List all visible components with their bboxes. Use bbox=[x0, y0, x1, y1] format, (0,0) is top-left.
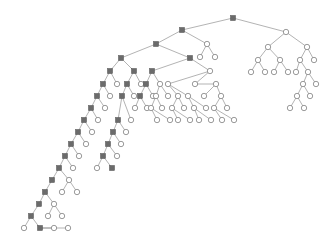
tree-node-circle bbox=[201, 93, 206, 98]
tree-node-circle bbox=[70, 165, 75, 170]
tree-node-circle bbox=[305, 69, 310, 74]
tree-node-square bbox=[110, 129, 115, 134]
tree-node-circle bbox=[65, 225, 70, 230]
tree-node-square bbox=[143, 81, 148, 86]
tree-node-circle bbox=[102, 105, 107, 110]
tree-node-circle bbox=[175, 93, 180, 98]
tree-node-circle bbox=[248, 69, 253, 74]
tree-node-circle bbox=[118, 141, 123, 146]
tree-node-circle bbox=[169, 105, 174, 110]
tree-node-circle bbox=[132, 105, 137, 110]
tree-node-circle bbox=[311, 57, 316, 62]
tree-node-square bbox=[124, 81, 129, 86]
tree-node-circle bbox=[95, 117, 100, 122]
figure-background bbox=[0, 0, 326, 245]
tree-node-circle bbox=[304, 44, 309, 49]
tree-node-circle bbox=[212, 54, 217, 59]
tree-node-square bbox=[230, 15, 235, 20]
tree-node-square bbox=[68, 141, 73, 146]
tree-node-circle bbox=[148, 105, 153, 110]
tree-node-circle bbox=[287, 105, 292, 110]
tree-node-circle bbox=[218, 93, 223, 98]
tree-node-circle bbox=[114, 153, 119, 158]
tree-node-circle bbox=[294, 93, 299, 98]
tree-node-circle bbox=[192, 81, 197, 86]
tree-node-square bbox=[115, 117, 120, 122]
tree-node-circle bbox=[107, 93, 112, 98]
tree-node-circle bbox=[138, 81, 143, 86]
tree-node-square bbox=[149, 68, 154, 73]
tree-node-circle bbox=[285, 69, 290, 74]
tree-node-circle bbox=[94, 165, 99, 170]
tree-node-circle bbox=[51, 225, 56, 230]
tree-node-circle bbox=[128, 117, 133, 122]
tree-node-circle bbox=[59, 213, 64, 218]
tree-node-square bbox=[105, 141, 110, 146]
tree-node-circle bbox=[191, 105, 196, 110]
tree-node-circle bbox=[165, 93, 170, 98]
tree-node-circle bbox=[159, 105, 164, 110]
tree-node-square bbox=[119, 93, 124, 98]
tree-node-circle bbox=[154, 117, 159, 122]
tree-node-circle bbox=[224, 105, 229, 110]
tree-node-circle bbox=[208, 117, 213, 122]
tree-node-circle bbox=[265, 44, 270, 49]
tree-node-circle bbox=[277, 57, 282, 62]
tree-node-circle bbox=[213, 81, 218, 86]
binary-tree-figure bbox=[0, 0, 326, 245]
tree-node-circle bbox=[300, 81, 305, 86]
tree-node-square bbox=[28, 213, 33, 218]
tree-node-circle bbox=[165, 81, 170, 86]
tree-node-circle bbox=[207, 68, 212, 73]
tree-node-circle bbox=[301, 105, 306, 110]
tree-node-square bbox=[49, 177, 54, 182]
tree-node-square bbox=[36, 201, 41, 206]
tree-node-circle bbox=[283, 29, 288, 34]
tree-node-circle bbox=[123, 129, 128, 134]
tree-node-circle bbox=[297, 57, 302, 62]
tree-node-circle bbox=[21, 225, 26, 230]
tree-node-square bbox=[62, 153, 67, 158]
tree-node-circle bbox=[89, 129, 94, 134]
tree-node-circle bbox=[185, 93, 190, 98]
tree-node-circle bbox=[293, 69, 298, 74]
tree-node-square bbox=[100, 81, 105, 86]
tree-node-circle bbox=[114, 81, 119, 86]
tree-node-circle bbox=[59, 189, 64, 194]
tree-node-square bbox=[37, 225, 42, 230]
tree-node-square bbox=[100, 153, 105, 158]
tree-node-square bbox=[131, 68, 136, 73]
tree-node-square bbox=[137, 93, 142, 98]
tree-node-circle bbox=[307, 93, 312, 98]
tree-node-circle bbox=[157, 81, 162, 86]
tree-node-circle bbox=[187, 117, 192, 122]
tree-node-square bbox=[81, 117, 86, 122]
tree-node-square bbox=[107, 68, 112, 73]
tree-node-circle bbox=[45, 213, 50, 218]
tree-node-circle bbox=[262, 69, 267, 74]
tree-node-circle bbox=[313, 81, 318, 86]
tree-node-square bbox=[179, 27, 184, 32]
tree-node-square bbox=[75, 129, 80, 134]
tree-node-square bbox=[118, 55, 123, 60]
tree-node-square bbox=[42, 189, 47, 194]
tree-node-circle bbox=[219, 117, 224, 122]
tree-node-circle bbox=[196, 117, 201, 122]
tree-node-square bbox=[187, 55, 192, 60]
tree-node-circle bbox=[271, 69, 276, 74]
tree-diagram-canvas bbox=[0, 0, 326, 245]
tree-node-square bbox=[109, 165, 114, 170]
tree-node-circle bbox=[211, 105, 216, 110]
tree-node-circle bbox=[203, 105, 208, 110]
tree-node-square bbox=[88, 105, 93, 110]
tree-node-circle bbox=[181, 105, 186, 110]
tree-node-circle bbox=[197, 54, 202, 59]
tree-node-square bbox=[153, 41, 158, 46]
tree-node-square bbox=[56, 165, 61, 170]
tree-node-circle bbox=[131, 93, 136, 98]
tree-node-circle bbox=[76, 153, 81, 158]
tree-node-circle bbox=[175, 117, 180, 122]
tree-node-circle bbox=[51, 201, 56, 206]
tree-node-circle bbox=[66, 177, 71, 182]
tree-node-circle bbox=[231, 117, 236, 122]
